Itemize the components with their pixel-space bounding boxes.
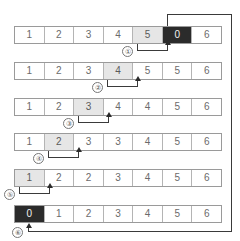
array-cell[interactable]: 5 — [163, 63, 193, 79]
step-6-connector-h-bottom — [28, 231, 231, 232]
array-cell[interactable]: 4 — [133, 99, 163, 115]
step-5-connector-v-end — [49, 188, 50, 194]
array-cell-highlighted[interactable]: 2 — [45, 134, 75, 150]
array-cell[interactable]: 2 — [45, 63, 75, 79]
array-cell[interactable]: 2 — [74, 170, 104, 186]
step-6-connector-v-end — [28, 228, 29, 232]
table-row: 1 2 2 3 4 5 6 — [14, 169, 222, 187]
array-cell[interactable]: 3 — [74, 27, 104, 43]
array-cell[interactable]: 2 — [74, 206, 104, 222]
array-cell[interactable]: 4 — [133, 170, 163, 186]
table-row: 1 2 3 4 5 0 6 — [14, 26, 222, 44]
array-cell[interactable]: 3 — [104, 134, 134, 150]
array-cell[interactable]: 5 — [163, 206, 193, 222]
array-cell-highlighted[interactable]: 3 — [74, 99, 104, 115]
array-cell[interactable]: 6 — [192, 170, 221, 186]
step-1-connector-h — [137, 50, 168, 51]
array-cell[interactable]: 6 — [192, 134, 221, 150]
array-cell[interactable]: 6 — [192, 63, 221, 79]
wraparound-connector-v-right — [231, 14, 232, 232]
wraparound-connector-v-left — [167, 14, 168, 26]
array-cell[interactable]: 1 — [15, 63, 45, 79]
table-row: 0 1 2 3 4 5 6 — [14, 205, 222, 223]
step-label-6: ⑥ — [12, 227, 23, 238]
array-cell-highlighted[interactable]: 4 — [104, 63, 134, 79]
array-cell-inserted[interactable]: 0 — [15, 206, 45, 222]
step-label-5: ⑤ — [4, 189, 15, 200]
step-3-arrowhead — [106, 112, 112, 117]
step-3-connector-v-end — [108, 117, 109, 123]
array-cell[interactable]: 3 — [104, 170, 134, 186]
array-cell[interactable]: 1 — [45, 206, 75, 222]
wraparound-connector-h-top — [167, 14, 232, 15]
array-cell[interactable]: 4 — [133, 134, 163, 150]
step-3-connector-h — [78, 122, 109, 123]
step-1-arrowhead — [165, 40, 171, 45]
array-cell[interactable]: 1 — [15, 134, 45, 150]
array-cell[interactable]: 5 — [163, 170, 193, 186]
step-6-arrowhead — [26, 223, 32, 228]
array-cell[interactable]: 2 — [45, 27, 75, 43]
step-2-arrowhead — [135, 76, 141, 81]
array-cell[interactable]: 3 — [104, 206, 134, 222]
step-label-2: ② — [92, 82, 103, 93]
table-row: 1 2 3 4 4 5 6 — [14, 98, 222, 116]
step-label-4: ④ — [33, 153, 44, 164]
array-cell[interactable]: 6 — [192, 27, 221, 43]
step-2-connector-h — [107, 86, 138, 87]
table-row: 1 2 3 3 4 5 6 — [14, 133, 222, 151]
array-cell-highlighted[interactable]: 5 — [133, 27, 163, 43]
array-shift-diagram: 1 2 3 4 5 0 6 ① 1 2 3 4 5 5 6 ② 1 2 3 4 … — [0, 0, 240, 241]
step-label-1: ① — [122, 46, 133, 57]
array-cell[interactable]: 1 — [15, 27, 45, 43]
table-row: 1 2 3 4 5 5 6 — [14, 62, 222, 80]
array-cell[interactable]: 2 — [45, 99, 75, 115]
step-5-connector-h — [19, 193, 50, 194]
array-cell[interactable]: 1 — [15, 99, 45, 115]
array-cell-highlighted[interactable]: 1 — [15, 170, 45, 186]
step-4-connector-v-end — [78, 152, 79, 158]
step-label-3: ③ — [63, 118, 74, 129]
array-cell[interactable]: 6 — [192, 99, 221, 115]
array-cell[interactable]: 3 — [74, 63, 104, 79]
step-5-arrowhead — [47, 183, 53, 188]
step-1-connector-v-end — [167, 45, 168, 51]
step-4-arrowhead — [76, 147, 82, 152]
step-2-connector-v-end — [137, 81, 138, 87]
array-cell[interactable]: 5 — [163, 134, 193, 150]
step-4-connector-h — [48, 157, 79, 158]
array-cell[interactable]: 5 — [163, 99, 193, 115]
array-cell[interactable]: 6 — [192, 206, 221, 222]
array-cell[interactable]: 4 — [104, 27, 134, 43]
array-cell[interactable]: 4 — [133, 206, 163, 222]
